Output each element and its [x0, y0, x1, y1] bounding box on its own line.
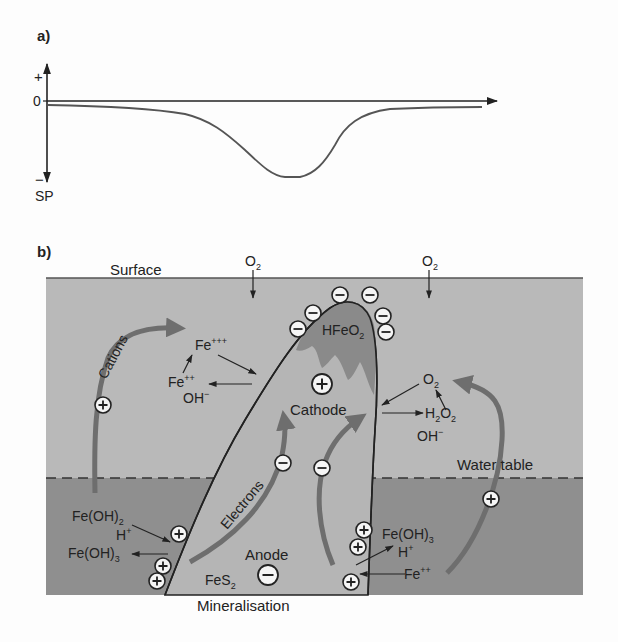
self-potential-diagram: a) + 0 − SP b) Surface O2 O2: [0, 0, 618, 642]
cation-plus-icon: [350, 539, 366, 555]
anode-label: Anode: [245, 546, 288, 563]
electron-minus-icon: [275, 455, 291, 471]
panel-a-sp-profile: a) + 0 − SP: [33, 27, 497, 204]
mineralisation-label: Mineralisation: [197, 597, 290, 614]
o2-left-label: O2: [245, 253, 261, 272]
panel-a-label: a): [37, 27, 50, 44]
cation-plus-icon: [356, 522, 372, 538]
o2-right-label: O2: [422, 253, 438, 272]
axis-minus-label: −: [35, 171, 44, 188]
axis-plus-label: +: [34, 68, 43, 85]
sp-anomaly-curve: [48, 105, 482, 177]
electron-minus-icon: [375, 308, 391, 324]
cation-plus-icon: [171, 526, 187, 542]
electron-minus-icon: [378, 324, 394, 340]
axis-zero-label: 0: [33, 93, 41, 109]
axis-sp-label: SP: [35, 188, 54, 204]
panel-b-label: b): [37, 243, 51, 260]
anode-minus-icon: [258, 565, 278, 585]
cathode-label: Cathode: [290, 401, 347, 418]
cation-plus-icon: [95, 397, 111, 413]
panel-b-cross-section: b) Surface O2 O2 Cations Fe+++ Fe++ OH−: [37, 243, 583, 614]
electron-minus-icon: [362, 287, 378, 303]
electron-minus-icon: [305, 305, 321, 321]
electron-minus-icon: [332, 287, 348, 303]
surface-label: Surface: [110, 261, 162, 278]
cation-plus-icon: [343, 574, 359, 590]
electron-minus-icon: [314, 460, 330, 476]
cation-plus-icon: [155, 558, 171, 574]
electron-minus-icon: [290, 321, 306, 337]
cathode-plus-icon: [312, 374, 332, 394]
cation-plus-icon: [149, 573, 165, 589]
cation-plus-icon: [483, 491, 499, 507]
water-table-label: Water table: [457, 456, 533, 473]
